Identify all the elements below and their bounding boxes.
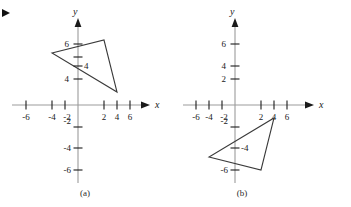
y-tick-label: 4 (65, 74, 70, 84)
y-axis-label-b: y (229, 6, 235, 17)
panel-a: x y -6 -4 -2 2 4 6 6 (12, 6, 160, 198)
x-tick-label: -4 (48, 112, 56, 122)
y-tick-label: 4 (222, 61, 227, 71)
y-axis-label-a: y (72, 6, 78, 17)
x-axis-label-b: x (318, 99, 324, 110)
x-tick-label: 6 (285, 112, 290, 122)
y-tick-label: -4 (64, 143, 72, 153)
x-tick-label: 4 (115, 112, 120, 122)
corner-arrow-icon (2, 9, 10, 17)
y-tick-label: -2 (221, 116, 229, 126)
x-tick-label: 2 (259, 112, 264, 122)
x-tick-labels-b: -6 -4 -2 2 4 6 (192, 112, 290, 122)
y-axis-arrow-icon-b (232, 18, 239, 27)
y-tick-label: 2 (222, 74, 227, 84)
y-tick-label: -6 (64, 165, 72, 175)
y-tick-label: 6 (65, 39, 70, 49)
x-axis-arrow-icon-a (141, 102, 150, 109)
panel-caption-b: (b) (237, 188, 248, 198)
y-tick-label: -2 (64, 116, 72, 126)
x-axis-label-a: x (154, 99, 160, 110)
x-tick-label: 2 (102, 112, 107, 122)
x-tick-label: -6 (192, 112, 200, 122)
x-tick-label: -6 (22, 112, 30, 122)
y-axis-arrow-icon-a (75, 18, 82, 27)
y-tick-label: 6 (222, 39, 227, 49)
annotation-label-a: 4 (84, 61, 89, 71)
y-tick-label: -6 (221, 165, 229, 175)
x-tick-label: -4 (205, 112, 213, 122)
panel-caption-a: (a) (80, 188, 90, 198)
x-tick-label: 4 (272, 112, 277, 122)
x-tick-label: 6 (128, 112, 133, 122)
x-axis-arrow-icon-b (305, 102, 314, 109)
annotation-label-b: -4 (241, 143, 249, 153)
panel-b: x y -6 -4 -2 2 4 6 6 4 (183, 6, 324, 198)
two-panel-coordinate-figure: x y -6 -4 -2 2 4 6 6 (0, 0, 351, 207)
